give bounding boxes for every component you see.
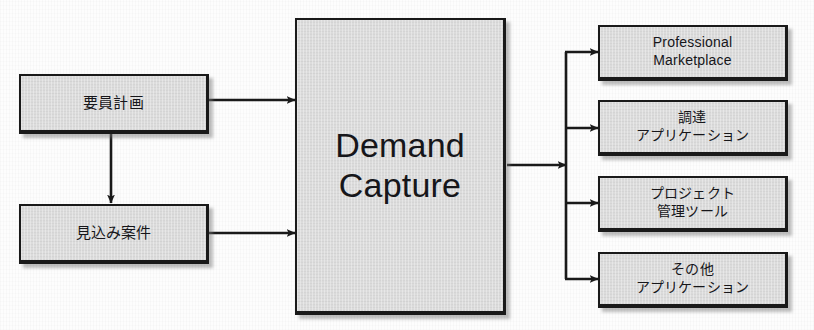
node-other-application[interactable]: その他 アプリケーション: [598, 252, 788, 308]
node-prospective-deals[interactable]: 見込み案件: [19, 204, 209, 264]
node-professional-marketplace[interactable]: Professional Marketplace: [598, 25, 788, 81]
node-demand-capture[interactable]: Demand Capture: [295, 18, 506, 315]
node-prospective-deals-label: 見込み案件: [76, 224, 152, 243]
flow-diagram: 要員計画 見込み案件 Demand Capture Professional M…: [0, 0, 814, 330]
node-headcount-plan[interactable]: 要員計画: [19, 74, 209, 134]
node-procurement-application[interactable]: 調達 アプリケーション: [598, 100, 788, 156]
node-demand-capture-label: Demand Capture: [335, 126, 465, 206]
node-procurement-application-label: 調達 アプリケーション: [636, 109, 750, 144]
node-project-management-tool[interactable]: プロジェクト 管理ツール: [598, 176, 788, 232]
node-headcount-plan-label: 要員計画: [83, 94, 144, 113]
node-professional-marketplace-label: Professional Marketplace: [653, 34, 732, 69]
node-project-management-tool-label: プロジェクト 管理ツール: [650, 185, 735, 220]
node-other-application-label: その他 アプリケーション: [636, 261, 750, 296]
